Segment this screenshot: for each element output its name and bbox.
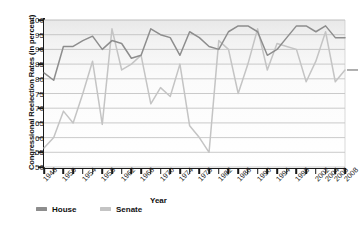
plot-svg [44, 20, 345, 167]
legend-item-house[interactable]: House [36, 203, 76, 215]
y-tick-95 [38, 34, 44, 36]
y-tick-90 [38, 49, 44, 51]
x-tick-1976 [189, 168, 191, 174]
legend-swatch-house-icon [36, 207, 47, 210]
x-tick-1992 [267, 168, 269, 174]
y-tick-85 [38, 63, 44, 65]
y-tick-100 [38, 19, 44, 21]
x-tick-1956 [92, 168, 94, 174]
legend-swatch-senate-icon [100, 207, 111, 210]
x-tick-1960 [111, 168, 113, 174]
y-tick-80 [38, 78, 44, 80]
legend-label-house: House [52, 205, 76, 214]
x-tick-1980 [208, 168, 210, 174]
series-line-senate [44, 29, 345, 152]
y-tick-70 [38, 107, 44, 109]
x-tick-1972 [169, 168, 171, 174]
legend-item-senate[interactable]: Senate [100, 203, 142, 215]
x-tick-1996 [286, 168, 288, 174]
legend-label-senate: Senate [116, 205, 142, 214]
x-tick-1964 [131, 168, 133, 174]
plot-area [44, 20, 345, 167]
x-tick-2000 [305, 168, 307, 174]
x-tick-1984 [228, 168, 230, 174]
y-tick-75 [38, 93, 44, 95]
x-tick-1988 [247, 168, 249, 174]
y-tick-60 [38, 137, 44, 139]
chart-figure: Congressional Reelection Rates (in perce… [0, 0, 359, 226]
y-tick-65 [38, 122, 44, 124]
x-tick-1968 [150, 168, 152, 174]
y-tick-55 [38, 152, 44, 154]
x-tick-1952 [72, 168, 74, 174]
x-axis-title: Year [150, 196, 167, 205]
x-tick-1948 [53, 168, 55, 174]
